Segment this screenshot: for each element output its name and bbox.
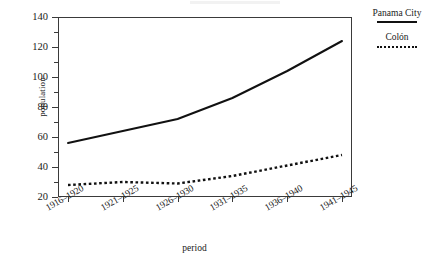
legend-entry-panama-city: Panama City xyxy=(366,8,428,23)
y-tick-label: 20 xyxy=(8,192,48,203)
x-axis-title-text: period xyxy=(182,243,206,253)
x-axis-title: period xyxy=(0,243,429,253)
legend-label-panama-city: Panama City xyxy=(366,8,428,19)
legend-label-colon: Colón xyxy=(366,32,428,43)
y-tick-label: 100 xyxy=(8,72,48,83)
y-tick-label: 140 xyxy=(8,12,48,23)
series-line-panama-city xyxy=(68,41,342,143)
y-axis-title: population xyxy=(37,52,47,142)
scan-artifact xyxy=(190,1,280,4)
chart-figure: population 20406080100120140 1916–192019… xyxy=(0,0,429,264)
legend-swatch-solid-line xyxy=(377,21,417,23)
series-layer xyxy=(58,17,352,197)
series-line-col-n xyxy=(68,155,342,185)
legend-entry-colon: Colón xyxy=(366,32,428,47)
y-tick-label: 120 xyxy=(8,42,48,53)
y-tick-label: 60 xyxy=(8,132,48,143)
legend-swatch-dashed-line xyxy=(377,46,417,48)
y-tick-label: 80 xyxy=(8,102,48,113)
y-tick-label: 40 xyxy=(8,162,48,173)
chart-legend: Panama City Colón xyxy=(366,8,428,57)
